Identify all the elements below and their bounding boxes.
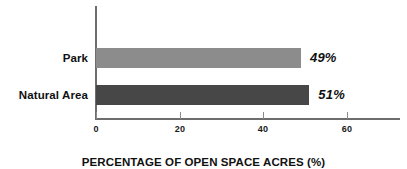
value-label-natural-area: 51% <box>318 87 345 102</box>
category-label-natural-area: Natural Area <box>19 89 88 101</box>
bar-park <box>96 48 301 68</box>
x-axis-tick-20 <box>180 112 181 119</box>
plot-area: 0 20 40 60 Park Natural Area 49% 51% PER… <box>0 0 407 169</box>
category-label-park: Park <box>63 52 88 64</box>
bar-chart: 0 20 40 60 Park Natural Area 49% 51% PER… <box>0 0 407 169</box>
x-axis-tick-60 <box>347 112 348 119</box>
x-axis-tick-40 <box>263 112 264 119</box>
x-axis-tick-0 <box>96 112 97 119</box>
x-axis-tick-label-20: 20 <box>160 124 200 134</box>
x-axis-title: PERCENTAGE OF OPEN SPACE ACRES (%) <box>0 156 407 168</box>
x-axis-tick-label-40: 40 <box>243 124 283 134</box>
x-axis-tick-label-60: 60 <box>327 124 367 134</box>
bar-natural-area <box>96 85 309 105</box>
value-label-park: 49% <box>310 50 337 65</box>
x-axis-line <box>95 118 400 120</box>
x-axis-tick-label-0: 0 <box>76 124 116 134</box>
